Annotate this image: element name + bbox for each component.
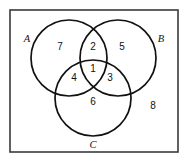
- region-number-6: 6: [90, 96, 96, 107]
- region-number-7: 7: [57, 41, 63, 52]
- set-label-c: C: [89, 139, 97, 150]
- region-number-8: 8: [150, 100, 156, 111]
- region-number-5: 5: [119, 41, 125, 52]
- region-number-1: 1: [90, 63, 96, 74]
- region-number-2: 2: [90, 41, 96, 52]
- set-label-b: B: [158, 33, 165, 44]
- venn-diagram-figure: A B C 1 2 3 4 5 6 7 8: [0, 0, 188, 162]
- venn-diagram-canvas: A B C 1 2 3 4 5 6 7 8: [0, 0, 188, 162]
- set-label-a: A: [23, 33, 31, 44]
- diagram-frame: [10, 10, 178, 152]
- region-number-3: 3: [107, 72, 113, 83]
- region-number-4: 4: [71, 72, 77, 83]
